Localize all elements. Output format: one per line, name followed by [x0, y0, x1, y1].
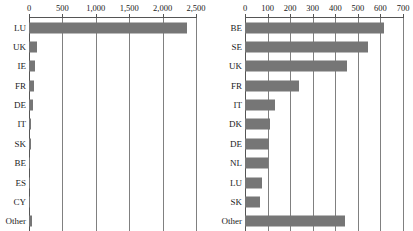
bar-row: LU — [29, 18, 196, 37]
bar-right-lu — [245, 177, 262, 188]
plot-area-left: LUUKIEFRDEITSKBEESCYOther — [29, 18, 196, 231]
bar-left-cy — [29, 196, 30, 207]
x-axis-ticks-left: 05001,0001,5002,0002,500 — [29, 0, 196, 18]
bar-row: UK — [29, 37, 196, 56]
category-label-left-uk: UK — [13, 42, 26, 52]
bar-row: Other — [245, 212, 403, 231]
gridline-right-7 — [403, 18, 404, 231]
bar-row: Other — [29, 212, 196, 231]
bar-left-sk — [29, 138, 31, 149]
x-tick-label-left-5: 2,500 — [186, 4, 205, 13]
x-tick-right-7 — [403, 14, 404, 18]
bar-row: DE — [29, 95, 196, 114]
category-label-right-it: IT — [234, 100, 243, 110]
bar-row: SE — [245, 37, 403, 56]
category-label-left-be: BE — [14, 158, 26, 168]
x-tick-label-right-3: 300 — [306, 4, 319, 13]
bar-row: FR — [29, 76, 196, 95]
category-label-right-se: SE — [231, 42, 242, 52]
x-tick-label-right-0: 0 — [243, 4, 247, 13]
bar-right-sk — [245, 196, 260, 207]
bar-row: IT — [245, 95, 403, 114]
bar-left-be — [29, 158, 30, 169]
category-label-left-es: ES — [15, 178, 26, 188]
bar-right-fr — [245, 80, 299, 91]
bar-left-it — [29, 119, 31, 130]
bar-row: DE — [245, 134, 403, 153]
bar-row: BE — [245, 18, 403, 37]
category-label-left-ie: IE — [18, 61, 27, 71]
bar-right-other — [245, 216, 345, 227]
bar-row: SK — [29, 134, 196, 153]
bar-row: CY — [29, 192, 196, 211]
category-label-right-be: BE — [230, 23, 242, 33]
bar-row: SK — [245, 192, 403, 211]
category-label-left-cy: CY — [13, 197, 26, 207]
x-axis-ticks-right: 0100200300400500600700 — [245, 0, 403, 18]
x-tick-label-right-1: 100 — [261, 4, 274, 13]
bar-row: LU — [245, 173, 403, 192]
bar-row: IT — [29, 115, 196, 134]
bar-right-de — [245, 138, 269, 149]
category-label-right-de: DE — [230, 139, 242, 149]
bar-row: FR — [245, 76, 403, 95]
chart-panel-right: 0100200300400500600700 BESEUKFRITDKDENLL… — [206, 0, 413, 231]
x-tick-label-left-2: 1,000 — [86, 4, 105, 13]
category-label-left-sk: SK — [14, 139, 26, 149]
bar-rows-left: LUUKIEFRDEITSKBEESCYOther — [29, 18, 196, 231]
category-label-left-lu: LU — [14, 23, 26, 33]
x-tick-label-right-4: 400 — [329, 4, 342, 13]
x-tick-label-right-2: 200 — [284, 4, 297, 13]
bar-left-ie — [29, 61, 35, 72]
bar-row: UK — [245, 57, 403, 76]
category-label-left-de: DE — [14, 100, 26, 110]
category-label-right-uk: UK — [229, 61, 242, 71]
bar-row: IE — [29, 57, 196, 76]
x-tick-label-right-6: 600 — [374, 4, 387, 13]
category-label-left-other: Other — [6, 216, 27, 226]
x-tick-label-right-7: 700 — [397, 4, 410, 13]
bar-row: BE — [29, 154, 196, 173]
bar-left-other — [29, 216, 32, 227]
x-tick-label-left-1: 500 — [56, 4, 69, 13]
bar-right-be — [245, 22, 384, 33]
bar-left-uk — [29, 42, 37, 53]
category-label-left-it: IT — [18, 119, 27, 129]
bar-right-uk — [245, 61, 347, 72]
bar-rows-right: BESEUKFRITDKDENLLUSKOther — [245, 18, 403, 231]
plot-area-right: BESEUKFRITDKDENLLUSKOther — [245, 18, 403, 231]
category-label-right-sk: SK — [230, 197, 242, 207]
bar-right-nl — [245, 158, 268, 169]
x-tick-label-left-0: 0 — [27, 4, 31, 13]
category-label-right-fr: FR — [231, 81, 242, 91]
bar-row: ES — [29, 173, 196, 192]
dual-bar-chart-figure: 05001,0001,5002,0002,500 LUUKIEFRDEITSKB… — [0, 0, 413, 231]
bar-left-es — [29, 177, 30, 188]
x-tick-label-left-3: 1,500 — [120, 4, 139, 13]
gridline-left-5 — [196, 18, 197, 231]
bar-right-it — [245, 100, 275, 111]
x-tick-label-left-4: 2,000 — [153, 4, 172, 13]
bar-right-se — [245, 42, 368, 53]
category-label-right-nl: NL — [230, 158, 242, 168]
bar-left-lu — [29, 22, 187, 33]
category-label-right-dk: DK — [229, 119, 242, 129]
bar-left-fr — [29, 80, 34, 91]
x-tick-label-right-5: 500 — [351, 4, 364, 13]
category-label-right-other: Other — [222, 216, 243, 226]
bar-right-dk — [245, 119, 270, 130]
category-label-left-fr: FR — [15, 81, 26, 91]
chart-panel-left: 05001,0001,5002,0002,500 LUUKIEFRDEITSKB… — [0, 0, 206, 231]
bar-left-de — [29, 100, 33, 111]
category-label-right-lu: LU — [230, 178, 242, 188]
bar-row: NL — [245, 154, 403, 173]
x-tick-left-5 — [196, 14, 197, 18]
bar-row: DK — [245, 115, 403, 134]
